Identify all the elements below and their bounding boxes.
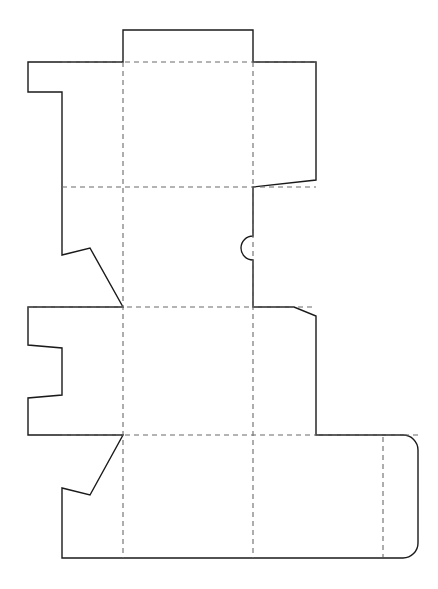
dieline-drawing [0, 0, 438, 589]
drawing-background [0, 0, 438, 589]
